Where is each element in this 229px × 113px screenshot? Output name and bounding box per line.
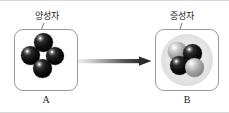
arrow-right-icon <box>78 55 152 67</box>
particle-proton-a-bottom <box>33 59 52 78</box>
particle-neutron-b-bottom-right <box>185 58 204 77</box>
nuclear-transformation-figure: 양성자 중성자 A B <box>0 0 229 113</box>
panel-caption-b: B <box>155 94 219 105</box>
panel-caption-a: A <box>14 94 78 105</box>
